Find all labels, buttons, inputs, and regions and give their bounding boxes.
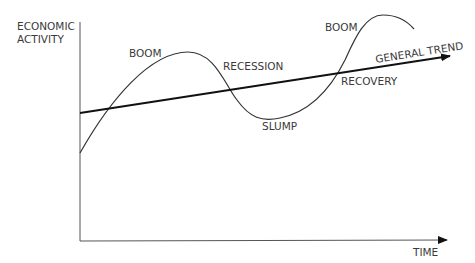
slump-label: SLUMP: [262, 120, 297, 132]
business-cycle-diagram: ECONOMIC ACTIVITY TIME BOOM RECESSION SL…: [0, 0, 475, 263]
y-axis-label-line1: ECONOMIC: [17, 20, 75, 32]
x-axis-label: TIME: [412, 246, 438, 258]
recession-label: RECESSION: [223, 60, 283, 72]
x-axis: [80, 240, 447, 241]
boom-label-1: BOOM: [129, 47, 162, 59]
boom-label-2: BOOM: [325, 21, 358, 33]
y-axis-label-line2: ACTIVITY: [17, 33, 65, 45]
recovery-label: RECOVERY: [341, 75, 398, 87]
